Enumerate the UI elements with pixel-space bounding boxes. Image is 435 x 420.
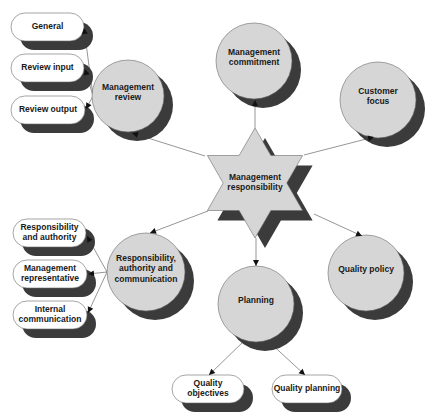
management-commitment-label-line: commitment [229, 57, 280, 67]
quality-policy-label-line: Quality policy [338, 264, 394, 274]
node-review-input[interactable]: Review input [11, 54, 84, 82]
responsibility-and-authority-label-line: Responsibility [20, 222, 78, 232]
management-representative-label-line: representative [21, 273, 79, 283]
node-management-representative[interactable]: Managementrepresentative [13, 260, 87, 288]
general-label-line: General [32, 21, 64, 31]
responsibility-authority-communication-label-line: Responsibility, [116, 253, 176, 263]
review-input-label-line: Review input [21, 62, 74, 72]
center-node-label-line: responsibility [227, 182, 283, 192]
node-management-commitment[interactable]: Managementcommitment [216, 23, 292, 99]
internal-communication-label-line: Internal [35, 304, 66, 314]
node-quality-objectives[interactable]: Qualityobjectives [172, 375, 244, 403]
responsibility-and-authority-label-line: and authority [23, 232, 77, 242]
node-internal-communication[interactable]: Internalcommunication [13, 301, 87, 329]
node-quality-policy[interactable]: Quality policy [328, 235, 404, 311]
connector-planning-to-quality-objectives [209, 340, 245, 375]
node-responsibility-authority-communication[interactable]: Responsibility,authority andcommunicatio… [107, 233, 185, 311]
connector-management-responsibility-to-customer-focus [304, 137, 374, 155]
internal-communication-label-line: communication [19, 314, 82, 324]
node-planning[interactable]: Planning [218, 266, 294, 342]
node-review-output[interactable]: Review output [11, 96, 85, 124]
management-commitment-label-line: Management [228, 47, 280, 57]
quality-planning-label-line: Quality planning [274, 383, 341, 393]
customer-focus-label-line: focus [367, 96, 390, 106]
node-management-review[interactable]: Managementreview [92, 60, 164, 132]
node-general[interactable]: General [11, 13, 84, 41]
node-responsibility-and-authority[interactable]: Responsibilityand authority [13, 219, 86, 247]
customer-focus-label-line: Customer [358, 86, 398, 96]
management-review-label-line: Management [102, 82, 154, 92]
node-customer-focus[interactable]: Customerfocus [340, 62, 416, 138]
connector-management-responsibility-to-responsibility-authority-communication [150, 211, 208, 233]
management-responsibility-diagram: ManagementresponsibilityManagementreview… [0, 0, 435, 420]
nodes: ManagementresponsibilityManagementreview… [11, 13, 416, 403]
management-review-label-line: review [115, 92, 142, 102]
node-quality-planning[interactable]: Quality planning [272, 375, 342, 403]
management-representative-label-line: Management [24, 263, 76, 273]
connector-management-responsibility-to-quality-policy [314, 214, 362, 236]
quality-objectives-label-line: Quality [194, 378, 223, 388]
review-output-label-line: Review output [19, 104, 77, 114]
responsibility-authority-communication-label-line: authority and [119, 263, 173, 273]
quality-objectives-label-line: objectives [187, 388, 229, 398]
planning-label-line: Planning [238, 295, 274, 305]
responsibility-authority-communication-label-line: communication [115, 274, 178, 284]
arrowhead-icon [253, 260, 259, 266]
center-node-label-line: Management [229, 172, 281, 182]
